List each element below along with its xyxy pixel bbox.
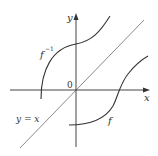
inverse-function-superscript: −1 — [45, 45, 54, 52]
function-label: f — [107, 115, 114, 126]
y-axis-arrow-icon — [74, 13, 79, 20]
x-axis-label: x — [144, 92, 150, 103]
inverse-function-diagram: y x 0 f −1 f y = x — [0, 0, 158, 156]
diagonal-line-y-equals-x — [20, 20, 144, 148]
diagonal-label: y = x — [15, 114, 39, 124]
y-axis-label: y — [66, 12, 73, 23]
origin-label: 0 — [67, 80, 73, 90]
